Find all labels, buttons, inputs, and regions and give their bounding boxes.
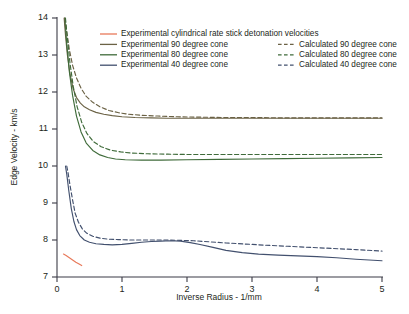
y-tick-label: 10 [38,160,48,170]
y-tick-label: 11 [39,123,48,133]
legend-label-right-1: Calculated 80 degree cone [299,50,397,59]
chart-canvas: 7891011121314 012345 Edge Velocity - km/… [0,0,409,314]
y-tick-label: 9 [43,197,48,207]
x-axis-title: Inverse Radius - 1/mm [176,292,262,302]
legend-label-left-1: Experimental 90 degree cone [121,40,228,49]
y-tick-label: 14 [38,12,48,22]
legend-label-right-0: Calculated 90 degree cone [299,40,397,49]
series-line-3 [65,166,382,261]
y-tick-label: 12 [38,86,48,96]
y-tick-label: 7 [43,271,48,281]
y-axis-ticks: 7891011121314 [38,12,57,281]
legend-label-right-2: Calculated 40 degree cone [299,60,397,69]
legend-label-left-0: Experimental cylindrical rate stick deto… [121,29,319,38]
x-tick-label: 0 [54,284,59,294]
y-tick-label: 8 [43,234,48,244]
x-tick-label: 5 [379,284,384,294]
legend-label-left-2: Experimental 80 degree cone [121,50,228,59]
series-line-6 [67,166,382,251]
y-tick-label: 13 [38,49,48,59]
x-tick-label: 4 [314,284,319,294]
chart-legend: Experimental cylindrical rate stick deto… [100,29,397,69]
y-axis-title: Edge Velocity - km/s [9,108,19,185]
series-line-0 [64,254,82,265]
legend-label-left-3: Experimental 40 degree cone [121,60,228,69]
x-tick-label: 1 [119,284,124,294]
series-line-5 [65,18,382,155]
chart-figure: 7891011121314 012345 Edge Velocity - km/… [0,0,409,314]
